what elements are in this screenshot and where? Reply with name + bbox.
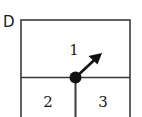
region-label-3: 3 xyxy=(98,93,108,111)
triple-junction-node xyxy=(70,72,82,84)
partition-diagram: 1 2 3 xyxy=(0,0,142,117)
figure-panel: D 1 2 3 xyxy=(0,0,142,117)
region-label-1: 1 xyxy=(69,41,79,59)
region-label-2: 2 xyxy=(43,93,53,111)
